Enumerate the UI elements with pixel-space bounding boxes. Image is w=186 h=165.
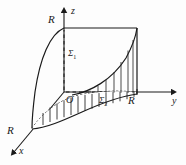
x-radius-label: R (7, 125, 14, 136)
origin-label: O (66, 95, 73, 105)
sigma1-label: Σ1 (68, 49, 76, 60)
x-axis-label: x (19, 146, 23, 156)
z-axis-label: z (71, 6, 75, 16)
sigma1-ruling-lines (90, 40, 133, 93)
y-axis-label: y (172, 96, 176, 106)
figure-canvas: R z y x R R O Σ1 Σ2 (0, 0, 186, 165)
sigma1-subscript: 1 (73, 54, 76, 60)
sigma1-front-curve (72, 28, 137, 95)
z-radius-label: R (48, 14, 55, 25)
sigma2-subscript: 2 (104, 101, 107, 107)
y-radius-label: R (128, 95, 135, 106)
sigma2-label: Σ2 (99, 96, 107, 107)
diagram-svg (0, 0, 186, 165)
